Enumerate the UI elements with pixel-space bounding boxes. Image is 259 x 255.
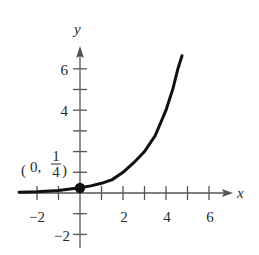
point-annotation: ( 0, 1 4 ) — [21, 148, 67, 180]
y-tick-label: 6 — [61, 62, 69, 78]
annotation-x-value: 0, — [30, 159, 41, 175]
y-tick-label: −2 — [54, 228, 70, 244]
x-tick-label: 2 — [120, 209, 128, 225]
y-tick-label: 4 — [61, 103, 69, 119]
y-axis-label: y — [72, 21, 81, 37]
annotation-close-paren: ) — [62, 162, 67, 179]
x-tick-label: 4 — [163, 209, 171, 225]
annotation-numerator: 1 — [52, 148, 60, 164]
annotation-denominator: 4 — [52, 164, 60, 180]
point-marker — [75, 183, 85, 193]
annotation-open-paren: ( — [21, 162, 26, 179]
x-tick-label: −2 — [29, 209, 45, 225]
x-axis-label: x — [236, 185, 244, 201]
exponential-graph: x y −2 2 4 6 6 4 −2 ( 0, 1 4 ) — [0, 0, 259, 255]
x-tick-label: 6 — [206, 209, 214, 225]
exponential-curve — [19, 56, 182, 193]
